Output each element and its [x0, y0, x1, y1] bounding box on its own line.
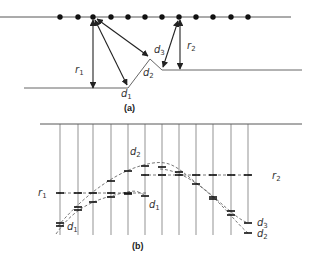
label-d1-left: d1: [67, 221, 78, 234]
reflector-step: [24, 59, 302, 88]
receiver-dot: [57, 14, 62, 19]
caption-a: (a): [124, 103, 135, 113]
label-r1: r1: [75, 64, 84, 77]
label-d2: d2: [143, 67, 154, 80]
label-d1: d1: [121, 88, 132, 101]
receiver-dot: [75, 14, 80, 19]
receiver-dot: [193, 14, 198, 19]
label-r2: r2: [187, 40, 196, 53]
receiver-dot: [108, 14, 113, 19]
figure-a: r1 r2 d1 d2 d3 (a): [0, 14, 302, 113]
figure-b: r1 r2 d2 d1 d1 d3 d2 (b): [38, 124, 302, 251]
receiver-dot: [245, 14, 250, 19]
d2-diffraction: [58, 163, 248, 233]
diagram-canvas: r1 r2 d1 d2 d3 (a): [0, 0, 314, 265]
label-d3: d3: [154, 44, 165, 57]
traces: [60, 124, 248, 235]
receiver-dot: [210, 14, 215, 19]
receiver-dot: [125, 14, 130, 19]
receiver-dot: [176, 14, 181, 19]
label-r2-b: r2: [272, 170, 281, 183]
ray-d3-left: [97, 19, 148, 56]
receiver-dot: [228, 14, 233, 19]
receiver-dot: [90, 14, 95, 19]
ray-d3-right: [163, 21, 178, 67]
receiver-dot: [142, 14, 147, 19]
receiver-dot: [159, 14, 164, 19]
caption-b: (b): [132, 241, 144, 251]
label-d1-mid: d1: [149, 199, 160, 212]
label-r1-b: r1: [38, 187, 47, 200]
label-d2-top: d2: [130, 146, 141, 159]
